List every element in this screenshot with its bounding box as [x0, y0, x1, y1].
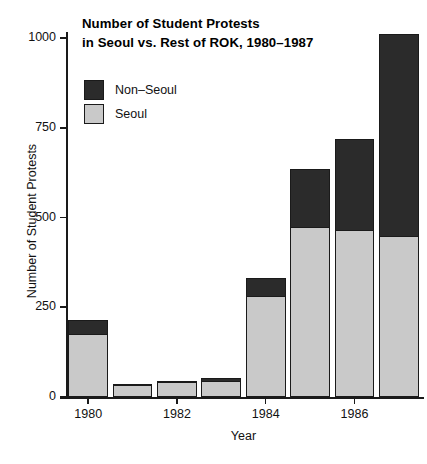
bar-segment-non-seoul-1983 — [201, 378, 241, 382]
legend-item-non-seoul: Non–Seoul — [84, 78, 177, 102]
x-tick-label-1980: 1980 — [58, 408, 118, 421]
bar-segment-non-seoul-1987 — [379, 34, 419, 237]
chart-page: Number of Student Protests in Seoul vs. … — [0, 0, 427, 464]
y-tick-label-wrap: 1000 — [8, 38, 56, 39]
y-tick-label-250: 250 — [12, 300, 56, 313]
bar-segment-seoul-1984 — [246, 296, 286, 397]
y-tick-label-wrap: 0 — [8, 397, 56, 398]
y-tick-label-wrap: 750 — [8, 128, 56, 129]
bar-segment-seoul-1985 — [290, 227, 330, 397]
x-tick-label-1986: 1986 — [324, 408, 384, 421]
y-tick-label-500: 500 — [12, 211, 56, 224]
x-axis-label: Year — [66, 429, 421, 443]
legend-swatch-non-seoul — [84, 80, 104, 100]
bar-segment-seoul-1987 — [379, 235, 419, 397]
bar-segment-seoul-1982 — [157, 382, 197, 397]
bar-group-1984 — [246, 30, 286, 398]
y-tick-label-750: 750 — [12, 121, 56, 134]
bar-group-1985 — [290, 30, 330, 398]
x-tick-1982 — [176, 398, 178, 404]
x-tick-1980 — [87, 398, 89, 404]
legend-label-non-seoul: Non–Seoul — [115, 84, 177, 97]
y-tick-label-1000: 1000 — [12, 31, 56, 44]
bar-segment-non-seoul-1984 — [246, 278, 286, 298]
x-tick-1984 — [265, 398, 267, 404]
y-tick-label-0: 0 — [12, 390, 56, 403]
legend-swatch-seoul — [84, 104, 104, 124]
chart-legend: Non–SeoulSeoul — [84, 78, 177, 126]
bar-segment-non-seoul-1982 — [157, 381, 197, 383]
bar-segment-non-seoul-1985 — [290, 169, 330, 228]
bar-segment-non-seoul-1980 — [68, 320, 108, 336]
bar-segment-seoul-1980 — [68, 334, 108, 397]
legend-item-seoul: Seoul — [84, 102, 177, 126]
bar-segment-non-seoul-1981 — [113, 384, 153, 386]
bar-segment-non-seoul-1986 — [335, 139, 375, 231]
x-tick-label-1984: 1984 — [236, 408, 296, 421]
legend-label-seoul: Seoul — [115, 108, 147, 121]
bar-segment-seoul-1981 — [113, 385, 153, 397]
bar-segment-seoul-1983 — [201, 381, 241, 398]
y-tick-label-wrap: 250 — [8, 307, 56, 308]
bar-group-1987 — [379, 30, 419, 398]
bar-group-1983 — [201, 30, 241, 398]
bar-segment-seoul-1986 — [335, 230, 375, 397]
bar-group-1986 — [335, 30, 375, 398]
x-tick-1986 — [354, 398, 356, 404]
y-tick-label-wrap: 500 — [8, 218, 56, 219]
x-tick-label-1982: 1982 — [147, 408, 207, 421]
